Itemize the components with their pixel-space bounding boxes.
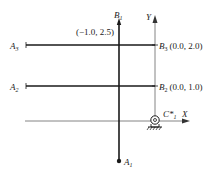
b1-label: B1 — [114, 10, 123, 21]
b1-coord: (−1.0, 2.5) — [76, 27, 114, 37]
pivot-support-icon — [147, 116, 162, 130]
x-axis-label: X — [181, 109, 188, 119]
a2-label: A2 — [9, 82, 19, 93]
a1-label: A1 — [123, 157, 133, 168]
x-axis-arrow-icon — [182, 119, 190, 124]
y-axis-label: Y — [146, 12, 152, 22]
b3-label: B3(0.0, 2.0) — [159, 41, 203, 52]
b2-label: B2(0.0, 1.0) — [159, 82, 203, 93]
a1-point — [117, 159, 121, 163]
linkage-diagram: B1 (−1.0, 2.5) Y B3(0.0, 2.0) B2(0.0, 1.… — [0, 0, 210, 174]
a3-label: A3 — [9, 41, 19, 52]
y-axis-arrow-icon — [153, 15, 158, 23]
c1-label: C*1 — [163, 109, 177, 120]
